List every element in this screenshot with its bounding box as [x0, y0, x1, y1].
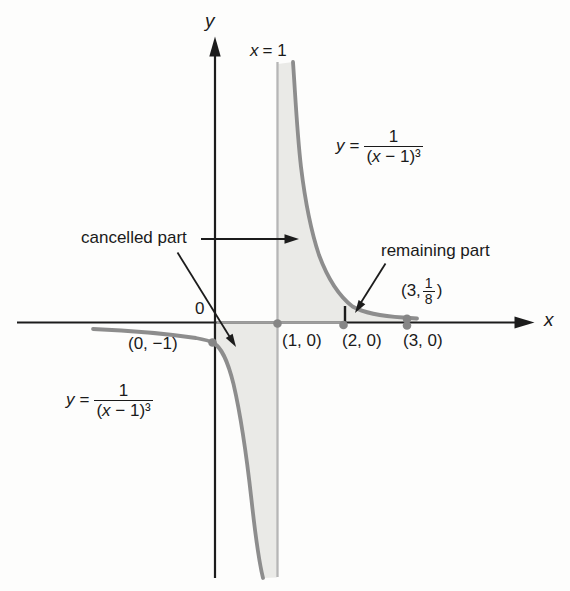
cancelled-part-label: cancelled part [81, 229, 187, 248]
dot-2-0 [339, 321, 348, 330]
function-graph-figure: y x 0 x = 1 y = 1 (x − 1)³ y = 1 (x − 1)… [0, 0, 570, 591]
formula-lower: y = 1 (x − 1)³ [66, 381, 153, 420]
formula-upper-denominator: (x − 1)³ [364, 146, 422, 166]
shaded-region-upper [278, 62, 417, 323]
den-post: − 1)³ [381, 147, 421, 166]
formula-upper: y = 1 (x − 1)³ [336, 127, 423, 166]
dot-3-0 [403, 321, 412, 330]
formula-upper-lhs: y [336, 137, 345, 156]
dot-0-neg1 [208, 338, 217, 347]
formula-lower-denominator: (x − 1)³ [94, 400, 152, 420]
point-label-3-eighth-suffix: ) [437, 282, 443, 301]
formula-lower-eq: = [80, 391, 90, 410]
formula-upper-fraction: 1 (x − 1)³ [364, 127, 422, 166]
point-label-2-0: (2, 0) [342, 332, 382, 351]
origin-label: 0 [195, 300, 204, 319]
point-label-3-eighth-prefix: (3, [401, 282, 421, 301]
formula-lower-lhs: y [66, 391, 75, 410]
remaining-arrow [361, 264, 386, 303]
den-var: x [372, 147, 381, 166]
point-label-3-eighth-den: 8 [423, 291, 435, 307]
y-axis-label: y [205, 11, 215, 32]
remaining-part-label: remaining part [381, 242, 490, 261]
point-label-3-eighth-num: 1 [425, 276, 433, 291]
den-var: x [102, 401, 111, 420]
point-label-3-eighth-fraction: 1 8 [423, 276, 435, 306]
graph-canvas [0, 0, 570, 591]
cancelled-arrow-lower [178, 253, 230, 337]
asymptote-label-rest: = 1 [263, 42, 287, 61]
y-axis-arrowhead-icon [209, 37, 220, 57]
x-axis-arrowhead-icon [515, 316, 535, 328]
asymptote-label-var: x [250, 42, 259, 61]
point-label-3-eighth: (3, 1 8 ) [401, 276, 442, 306]
formula-lower-fraction: 1 (x − 1)³ [94, 381, 152, 420]
den-post: − 1)³ [111, 401, 151, 420]
formula-upper-numerator: 1 [389, 127, 398, 146]
point-label-0-neg1: (0, −1) [128, 335, 178, 354]
point-label-3-0: (3, 0) [403, 332, 443, 351]
formula-upper-eq: = [350, 137, 360, 156]
asymptote-label: x = 1 [250, 42, 287, 61]
dot-1-0 [273, 319, 282, 328]
formula-lower-numerator: 1 [119, 381, 128, 400]
point-label-1-0: (1, 0) [282, 332, 322, 351]
x-axis-label: x [544, 310, 554, 331]
